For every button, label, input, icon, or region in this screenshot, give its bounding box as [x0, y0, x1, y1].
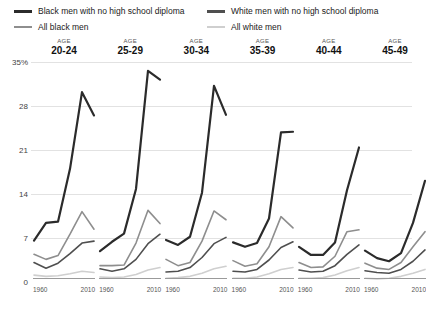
legend-column-right: White men with no high school diplomaAll… [207, 4, 378, 36]
series-line [365, 250, 425, 273]
panel-lines [298, 56, 360, 282]
series-line [34, 212, 94, 260]
chart-panel-25-29: 19602010 [99, 56, 161, 296]
legend-item-label: Black men with no high school diploma [38, 7, 184, 16]
age-word-label: AGE [232, 38, 294, 45]
panel-lines [33, 56, 95, 282]
series-line [166, 86, 226, 245]
legend-item: All black men [14, 20, 184, 34]
series-line [365, 232, 425, 270]
panel-lines [165, 56, 227, 282]
age-range-label: 40-44 [298, 45, 360, 56]
x-axis-rule [165, 278, 227, 280]
legend-item-label: White men with no high school diploma [231, 7, 378, 16]
legend-item: Black men with no high school diploma [14, 4, 184, 18]
x-axis-tick-end: 2010 [147, 286, 161, 293]
series-line [100, 210, 160, 265]
chart-panel-40-44: 19602010 [298, 56, 360, 296]
x-axis-tick-end: 2010 [345, 286, 359, 293]
chart-panel-30-34: 19602010 [165, 56, 227, 296]
legend-item: White men with no high school diploma [207, 4, 378, 18]
x-axis-tick-start: 1960 [99, 286, 113, 293]
panel-header-40-44: AGE40-44 [298, 38, 360, 56]
series-line [166, 211, 226, 266]
age-word-label: AGE [364, 38, 426, 45]
x-axis-tick-end: 2010 [412, 286, 426, 293]
x-axis-rule [99, 278, 161, 280]
age-range-label: 25-29 [99, 45, 161, 56]
age-word-label: AGE [298, 38, 360, 45]
legend-column-left: Black men with no high school diplomaAll… [14, 4, 184, 36]
panel-header-35-39: AGE35-39 [232, 38, 294, 56]
x-axis-tick-start: 1960 [33, 286, 47, 293]
x-axis-rule [298, 278, 360, 280]
age-range-label: 35-39 [232, 45, 294, 56]
series-line [34, 271, 94, 276]
series-line [365, 181, 425, 261]
series-line [299, 147, 359, 254]
x-axis-tick-start: 1960 [165, 286, 179, 293]
panel-header-20-24: AGE20-24 [33, 38, 95, 56]
chart-legend: Black men with no high school diplomaAll… [0, 0, 416, 36]
chart-panel-20-24: 19602010 [33, 56, 95, 296]
series-line [100, 71, 160, 251]
panel-lines [232, 56, 294, 282]
age-word-label: AGE [165, 38, 227, 45]
legend-item-label: All white men [231, 23, 282, 32]
x-axis-rule [364, 278, 426, 280]
legend-swatch-icon [14, 10, 32, 13]
panel-header-25-29: AGE25-29 [99, 38, 161, 56]
panel-lines [99, 56, 161, 282]
age-word-label: AGE [33, 38, 95, 45]
panel-header-30-34: AGE30-34 [165, 38, 227, 56]
age-range-label: 45-49 [364, 45, 426, 56]
x-axis-tick-end: 2010 [213, 286, 227, 293]
legend-swatch-icon [207, 26, 225, 28]
panel-header-45-49: AGE45-49 [364, 38, 426, 56]
series-line [233, 217, 293, 267]
x-axis-tick-start: 1960 [232, 286, 246, 293]
legend-item: All white men [207, 20, 378, 34]
plot-area: 35%28211470 1960201019602010196020101960… [0, 56, 416, 319]
legend-swatch-icon [207, 10, 225, 13]
series-line [34, 92, 94, 240]
chart-panel-35-39: 19602010 [232, 56, 294, 296]
x-axis-tick-end: 2010 [279, 286, 293, 293]
age-range-label: 20-24 [33, 45, 95, 56]
legend-item-label: All black men [38, 23, 89, 32]
age-word-label: AGE [99, 38, 161, 45]
x-axis-tick-start: 1960 [364, 286, 378, 293]
x-axis-rule [232, 278, 294, 280]
chart-panel-45-49: 19602010 [364, 56, 426, 296]
x-axis-rule [33, 278, 95, 280]
legend-swatch-icon [14, 26, 32, 28]
age-range-label: 30-34 [165, 45, 227, 56]
x-axis-tick-end: 2010 [81, 286, 95, 293]
series-line [233, 132, 293, 247]
panels-container: 1960201019602010196020101960201019602010… [0, 56, 416, 319]
series-line [100, 268, 160, 278]
x-axis-tick-start: 1960 [298, 286, 312, 293]
panel-lines [364, 56, 426, 282]
